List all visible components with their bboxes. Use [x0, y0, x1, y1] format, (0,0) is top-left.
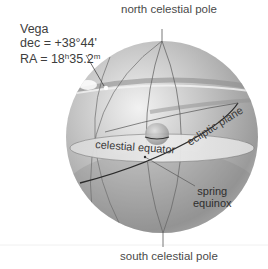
celestial-sphere-diagram: celestial equator ecliptic plane Vega de…	[0, 0, 268, 269]
vega-star	[104, 86, 108, 90]
spring-equinox-point	[144, 156, 146, 158]
declination: dec = +38°44'	[20, 36, 100, 50]
spring-equinox-label: spring equinox	[193, 185, 232, 209]
vega-label: Vega dec = +38°44' RA = 18h35.2m	[20, 22, 100, 66]
vega-star-glow	[79, 80, 97, 90]
south-celestial-pole-label: south celestial pole	[120, 250, 218, 263]
star-name: Vega	[20, 22, 100, 36]
north-celestial-pole-label: north celestial pole	[121, 3, 217, 16]
right-ascension: RA = 18h35.2m	[20, 50, 100, 66]
